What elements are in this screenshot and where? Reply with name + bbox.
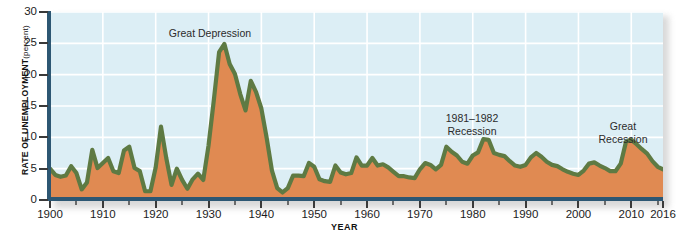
x-axis-tick-minor [392, 201, 394, 205]
x-axis-tick [313, 201, 315, 208]
x-axis-tick-label: 1930 [186, 208, 232, 220]
y-axis-tick-label: 25 [1, 36, 37, 48]
x-axis-tick-label: 2016 [640, 208, 686, 220]
x-axis-tick-minor [287, 201, 289, 205]
x-axis-title: YEAR [0, 222, 689, 232]
x-axis-tick [577, 201, 579, 208]
x-axis-tick [49, 201, 51, 208]
x-axis-tick-label: 1980 [450, 208, 496, 220]
y-axis-tick-label: 10 [1, 130, 37, 142]
y-axis-tick-label: 5 [1, 162, 37, 174]
y-axis-title: RATE OF UNEMPLOYMENT(percent) [20, 5, 30, 195]
x-axis-tick-minor [657, 201, 659, 205]
x-axis-tick-label: 1920 [133, 208, 179, 220]
chart-plot-svg [50, 12, 663, 200]
x-axis-line [47, 197, 663, 201]
x-axis-tick [260, 201, 262, 208]
plot-area [50, 12, 663, 200]
y-axis-tick-label: 30 [1, 5, 37, 17]
x-axis-tick-label: 1900 [27, 208, 73, 220]
x-axis-tick-minor [340, 201, 342, 205]
x-axis-tick [155, 201, 157, 208]
x-axis-tick [102, 201, 104, 208]
x-axis-tick [472, 201, 474, 208]
y-axis-tick [39, 42, 48, 44]
x-axis-tick-label: 1960 [344, 208, 390, 220]
x-axis-tick-label: 1950 [291, 208, 337, 220]
x-axis-tick-minor [234, 201, 236, 205]
y-axis-tick [39, 74, 48, 76]
y-axis-tick [39, 105, 48, 107]
annotation-great-recession: Great Recession [578, 120, 668, 145]
unemployment-rate-chart: 051015202530 190019101920193019401950196… [0, 0, 689, 246]
annotation-great-depression: Great Depression [120, 27, 300, 40]
y-axis-title-unit: (percent) [21, 25, 30, 59]
x-axis-tick-minor [551, 201, 553, 205]
x-axis-tick [630, 201, 632, 208]
y-axis-tick-label: 15 [1, 99, 37, 111]
x-axis-tick-label: 1940 [238, 208, 284, 220]
x-axis-tick-minor [75, 201, 77, 205]
x-axis-tick-label: 1910 [80, 208, 126, 220]
y-axis-tick-label: 20 [1, 68, 37, 80]
y-axis-tick [39, 168, 48, 170]
y-axis-tick [39, 199, 48, 201]
x-axis-tick [662, 201, 664, 208]
x-axis-tick [208, 201, 210, 208]
x-axis-tick-minor [445, 201, 447, 205]
y-axis-title-text: RATE OF UNEMPLOYMENT [20, 59, 30, 175]
x-axis-tick-minor [498, 201, 500, 205]
x-axis-tick-minor [128, 201, 130, 205]
x-axis-tick [419, 201, 421, 208]
y-axis-tick [39, 136, 48, 138]
x-axis-tick-minor [604, 201, 606, 205]
x-axis-tick-label: 2000 [555, 208, 601, 220]
x-axis-tick-label: 1970 [397, 208, 443, 220]
annotation-recession-1981-1982: 1981–1982 Recession [412, 112, 532, 137]
x-axis-tick-minor [181, 201, 183, 205]
y-axis-tick-label: 0 [1, 193, 37, 205]
x-axis-tick-label: 1990 [503, 208, 549, 220]
x-axis-tick [366, 201, 368, 208]
x-axis-tick [525, 201, 527, 208]
y-axis-tick [39, 11, 48, 13]
